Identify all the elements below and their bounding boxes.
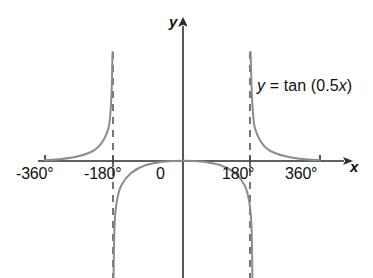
equation-variable: x <box>339 77 347 94</box>
equation-annotation: y = tan (0.5x) <box>257 78 352 94</box>
equation-operator: = <box>270 77 279 94</box>
x-tick-label-360: 360° <box>285 166 317 182</box>
curve-branch-left <box>45 52 113 160</box>
curve-branch-right <box>251 52 320 160</box>
equation-coefficient: 0.5 <box>316 77 339 94</box>
x-tick-label-180: 180° <box>222 166 254 182</box>
x-tick-label-neg180: -180° <box>84 166 121 182</box>
x-axis-label: x <box>350 159 358 174</box>
y-axis-label: y <box>169 14 177 29</box>
x-tick-label-neg360: -360° <box>16 166 53 182</box>
plot-canvas <box>0 0 373 278</box>
tangent-function-graph: -360° -180° 0 180° 360° y x y = tan (0.5… <box>0 0 373 278</box>
equation-lhs: y <box>257 77 265 94</box>
equation-close-paren: ) <box>347 77 352 94</box>
equation-function: tan <box>284 77 307 94</box>
x-tick-label-zero: 0 <box>156 166 165 182</box>
